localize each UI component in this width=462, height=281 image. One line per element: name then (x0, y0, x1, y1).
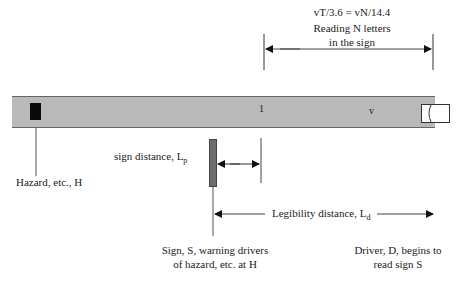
legibility-distance-label: Legibility distance, Ld (272, 207, 370, 224)
sign-label-line1: Sign, S, warning drivers (140, 244, 290, 257)
sign-distance-subscript: p (183, 156, 187, 165)
reading-label-line2: in the sign (290, 36, 414, 49)
speed-label: v (369, 104, 374, 117)
sign-icon (209, 139, 217, 187)
driver-label-line1: Driver, D, begins to (348, 244, 448, 257)
reading-label-line2-text: in the sign (327, 36, 377, 48)
vehicle-icon (421, 104, 450, 123)
hazard-icon (30, 103, 41, 120)
sign-distance-text: sign distance, L (114, 150, 183, 162)
sign-label-line2: of hazard, etc. at H (140, 258, 290, 271)
driver-label-line2: read sign S (348, 258, 448, 271)
hazard-label: Hazard, etc., H (16, 176, 82, 189)
reading-label-line1: Reading N letters (290, 22, 414, 35)
formula-text: vT/3.6 = vN/14.4 (290, 6, 414, 19)
legibility-distance-subscript: d (366, 213, 370, 222)
legibility-distance-text: Legibility distance, L (272, 207, 366, 219)
sign-distance-label: sign distance, Lp (114, 150, 187, 167)
point-label: 1 (259, 102, 264, 115)
